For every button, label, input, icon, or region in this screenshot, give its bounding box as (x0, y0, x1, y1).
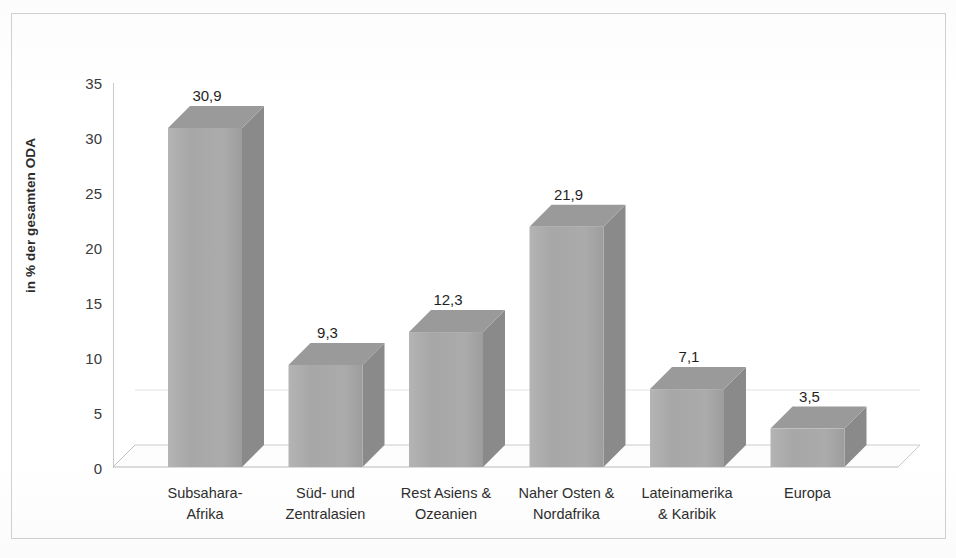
x-label-2-line2: Zentralasien (261, 504, 391, 525)
y-axis-title: in % der gesamten ODA (23, 126, 38, 306)
x-label-5-line2: & Karibik (622, 504, 752, 525)
x-label-6-line1: Europa (743, 483, 873, 504)
x-label-2: Süd- undZentralasien (261, 483, 391, 525)
x-label-4-line1: Naher Osten & (502, 483, 632, 504)
x-label-4-line2: Nordafrika (502, 504, 632, 525)
y-tick-25: 25 (68, 186, 102, 201)
bar-4-value-label: 21,9 (532, 186, 606, 203)
y-tick-15: 15 (68, 296, 102, 311)
x-label-5-line1: Lateinamerika (622, 483, 752, 504)
chart-frame (11, 13, 946, 539)
bar-3-value-label: 12,3 (411, 291, 485, 308)
x-label-5: Lateinamerika& Karibik (622, 483, 752, 525)
bar-2-value-label: 9,3 (291, 324, 365, 341)
bar-5-value-label: 7,1 (652, 348, 726, 365)
y-axis-line (113, 83, 114, 468)
x-label-3-line2: Ozeanien (381, 504, 511, 525)
x-label-2-line1: Süd- und (261, 483, 391, 504)
x-label-3: Rest Asiens &Ozeanien (381, 483, 511, 525)
bar-1-value-label: 30,9 (170, 87, 244, 104)
x-label-1: Subsahara-Afrika (140, 483, 270, 525)
y-tick-5: 5 (68, 406, 102, 421)
chart-container: in % der gesamten ODA 35 30 25 20 15 10 … (0, 0, 956, 558)
y-tick-20: 20 (68, 241, 102, 256)
bar-6-value-label: 3,5 (773, 388, 847, 405)
y-tick-10: 10 (68, 351, 102, 366)
x-label-4: Naher Osten &Nordafrika (502, 483, 632, 525)
y-axis-tick-labels: 35 30 25 20 15 10 5 0 (62, 0, 102, 558)
x-label-3-line1: Rest Asiens & (381, 483, 511, 504)
y-tick-30: 30 (68, 131, 102, 146)
y-tick-35: 35 (68, 76, 102, 91)
x-label-1-line1: Subsahara- (140, 483, 270, 504)
y-tick-0: 0 (68, 461, 102, 476)
x-label-1-line2: Afrika (140, 504, 270, 525)
x-label-6: Europa (743, 483, 873, 504)
